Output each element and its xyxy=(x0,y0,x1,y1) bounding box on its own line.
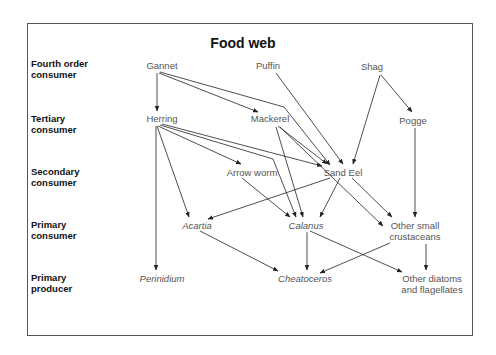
level-label-line: Primary xyxy=(31,219,76,230)
level-label-line: producer xyxy=(31,283,72,294)
level-label-line: consumer xyxy=(31,124,76,135)
edge-mackerel-calanus xyxy=(276,127,303,217)
node-sand-eel: Sand Eel xyxy=(324,167,363,178)
node-line: crustaceans xyxy=(389,231,440,242)
edge-sandeel-othercrust xyxy=(352,178,392,217)
level-label-line: Tertiary xyxy=(31,113,76,124)
node-gannet: Gannet xyxy=(146,60,177,71)
edge-sandeel-acartia xyxy=(208,178,330,219)
node-calanus: Calanus xyxy=(289,220,324,231)
edge-herring-acartia xyxy=(157,126,189,217)
edge-shag-sandeel xyxy=(353,75,380,164)
level-label-tertiary: Tertiary consumer xyxy=(31,113,76,135)
level-label-line: consumer xyxy=(31,69,88,80)
node-line: and flagellates xyxy=(401,284,462,295)
level-label-fourth-order: Fourth order consumer xyxy=(31,58,88,80)
node-other-diatoms-flagellates: Other diatoms and flagellates xyxy=(401,273,462,295)
node-herring: Herring xyxy=(146,113,177,124)
node-acartia: Acartia xyxy=(182,220,212,231)
level-label-line: Fourth order xyxy=(31,58,88,69)
level-label-line: consumer xyxy=(31,230,76,241)
level-label-line: consumer xyxy=(31,177,80,188)
edge-herring-sandeel xyxy=(162,124,322,166)
node-mackerel: Mackerel xyxy=(251,113,290,124)
node-arrow-worm: Arrow worm xyxy=(227,167,278,178)
node-puffin: Puffin xyxy=(256,60,280,71)
node-line: Other diatoms xyxy=(401,273,462,284)
node-pogge: Pogge xyxy=(399,115,426,126)
level-label-line: Secondary xyxy=(31,166,80,177)
node-line: Other small xyxy=(389,220,440,231)
node-perinidium: Perinidium xyxy=(140,273,185,284)
level-label-secondary: Secondary consumer xyxy=(31,166,80,188)
level-label-primary-producer: Primary producer xyxy=(31,272,72,294)
title-text: Food web xyxy=(210,35,275,51)
level-label-line: Primary xyxy=(31,272,72,283)
edge-herring-arrowworm xyxy=(158,126,241,164)
edge-calanus-otherdiatoms xyxy=(310,231,402,272)
edge-sandeel-calanus xyxy=(320,178,340,217)
node-shag: Shag xyxy=(361,61,383,72)
diagram-title: Food web xyxy=(0,35,496,51)
node-cheatoceros: Cheatoceros xyxy=(278,273,332,284)
level-label-primary-consumer: Primary consumer xyxy=(31,219,76,241)
edge-gannet-mackerel xyxy=(159,73,258,112)
edge-othercrust-cheatoceros xyxy=(320,243,390,273)
edge-shag-pogge xyxy=(381,75,412,112)
node-other-small-crustaceans: Other small crustaceans xyxy=(389,220,440,242)
edge-acartia-cheatoceros xyxy=(200,231,278,271)
